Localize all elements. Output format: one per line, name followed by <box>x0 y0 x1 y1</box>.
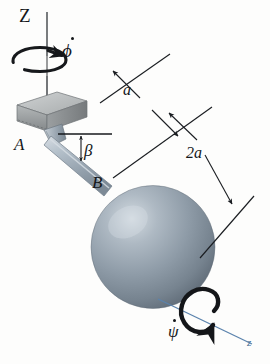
point-label-B: B <box>92 174 102 191</box>
point-label-A: A <box>14 136 24 153</box>
precession-arrow-phi <box>13 48 66 72</box>
psi-dot-overmark <box>173 319 176 322</box>
axis-label-Z: Z <box>19 6 31 25</box>
dimension-label-a: a <box>123 82 131 98</box>
spin-axis-label-z: z <box>247 337 251 348</box>
dimension-label-2a: 2a <box>186 145 202 161</box>
spin-rate-label: ψ <box>168 323 179 340</box>
mechanics-figure: Z A B ϕ β ψ a 2a z <box>0 0 270 364</box>
phi-dot-overmark <box>71 37 74 40</box>
figure-canvas <box>0 0 270 364</box>
angle-label-beta: β <box>84 142 92 159</box>
spin-arrow-psi <box>181 289 218 332</box>
precession-rate-label: ϕ <box>62 41 72 60</box>
